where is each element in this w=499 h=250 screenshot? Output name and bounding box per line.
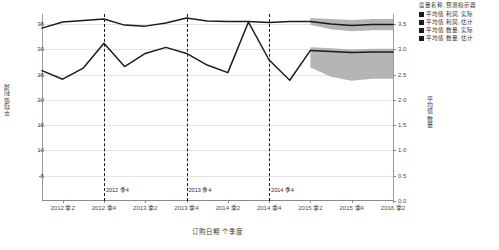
right-axis-tick-label: 2.5 [398,72,422,78]
forecast-chart: 5101520253035 0.00.51.01.52.02.53.03.5 2… [0,0,499,250]
legend-item[interactable]: 平均值 数量, 估计 [419,34,499,42]
legend-item[interactable]: 平均值 利润, 实际 [419,10,499,18]
legend-swatch-icon [419,28,424,33]
x-axis-tick-label: 2016 季2 [381,205,405,212]
x-axis-title: 订购日期 个季度 [42,228,393,236]
x-axis-tick-label: 2014 季2 [216,205,240,212]
right-axis-tick-mark [393,49,396,50]
right-axis-tick-mark [393,150,396,151]
legend: 度量名称, 预测指示器 平均值 利润, 实际平均值 利润, 估计平均值 数量, … [419,2,499,42]
x-axis-tick-label: 2012 季2 [50,205,74,212]
right-axis-tick-mark [393,176,396,177]
right-axis-tick-label: 3.0 [398,46,422,52]
series-line [42,22,310,80]
series-layer [42,14,393,201]
right-axis-tick-label: 0.5 [398,173,422,179]
legend-item-label: 平均值 利润, 实际 [426,11,473,18]
x-axis-tick-label: 2013 季4 [174,205,198,212]
x-axis-tick-mark [393,200,394,203]
right-axis-tick-label: 1.0 [398,147,422,153]
x-axis-tick-label: 2012 季4 [92,205,116,212]
x-axis-tick-label: 2014 季4 [257,205,281,212]
legend-item-label: 平均值 数量, 实际 [426,27,473,34]
legend-item-label: 平均值 利润, 估计 [426,19,473,26]
right-axis-tick-mark [393,75,396,76]
legend-item[interactable]: 平均值 利润, 估计 [419,18,499,26]
legend-item-label: 平均值 数量, 估计 [426,35,473,42]
right-axis-line [393,14,394,201]
right-axis-tick-mark [393,125,396,126]
right-axis-tick-mark [393,100,396,101]
legend-swatch-icon [419,36,424,41]
right-axis-tick-label: 2.0 [398,97,422,103]
left-axis-title: 平均值 利润 [4,84,11,116]
series-line [42,18,310,28]
legend-item[interactable]: 平均值 数量, 实际 [419,26,499,34]
x-axis-tick-label: 2015 季4 [340,205,364,212]
legend-items: 平均值 利润, 实际平均值 利润, 估计平均值 数量, 实际平均值 数量, 估计 [419,10,499,42]
right-axis-tick-label: 1.5 [398,122,422,128]
legend-title: 度量名称, 预测指示器 [419,2,499,9]
legend-swatch-icon [419,20,424,25]
x-axis-tick-label: 2015 季2 [298,205,322,212]
x-axis-tick-label: 2013 季2 [133,205,157,212]
right-axis-tick-label: 0.0 [398,198,422,204]
right-axis-title: 平均值 数量 [425,96,432,128]
legend-swatch-icon [419,12,424,17]
